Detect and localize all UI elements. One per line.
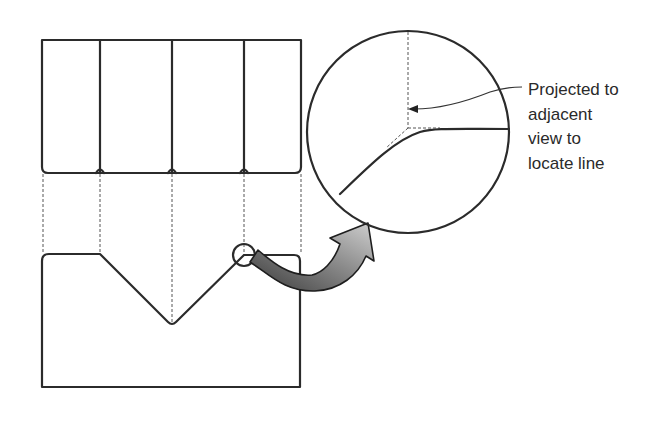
callout-line-4: locate line (528, 152, 619, 177)
detail-view (307, 31, 522, 233)
top-view (42, 40, 301, 173)
callout-line-1: Projected to (528, 78, 619, 103)
detail-circle (307, 31, 509, 233)
magnify-arrow (250, 223, 374, 291)
leader-arrowhead-icon (408, 105, 418, 113)
callout-text: Projected to adjacent view to locate lin… (528, 78, 619, 176)
projection-lines (43, 174, 301, 322)
front-view-outline (42, 254, 300, 387)
callout-line-3: view to (528, 127, 619, 152)
callout-line-2: adjacent (528, 103, 619, 128)
projection-diagram (0, 0, 665, 422)
intersection-curve (340, 129, 509, 194)
front-view (42, 254, 300, 387)
